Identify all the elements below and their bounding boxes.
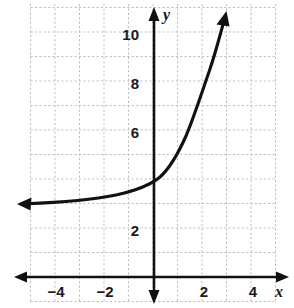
curve-left-arrowhead (17, 198, 32, 211)
x-tick-label-minus-4: −4 (42, 284, 70, 299)
curve-right-arrowhead (217, 11, 230, 27)
x-tick-label-minus-2: −2 (91, 284, 119, 299)
y-tick-label-10: 10 (113, 27, 139, 42)
y-tick-label-6: 6 (113, 125, 139, 140)
x-tick-label-4: 4 (239, 284, 267, 299)
y-axis (149, 7, 160, 304)
x-axis-label: x (275, 284, 283, 300)
y-tick-label-2: 2 (113, 223, 139, 238)
y-axis-label: y (163, 7, 170, 23)
y-tick-label-8: 8 (113, 76, 139, 91)
x-tick-label-2: 2 (190, 284, 218, 299)
exponential-graph-figure: 10 8 6 2 −4 −2 2 4 y x (0, 0, 294, 308)
plot-canvas (0, 0, 294, 308)
